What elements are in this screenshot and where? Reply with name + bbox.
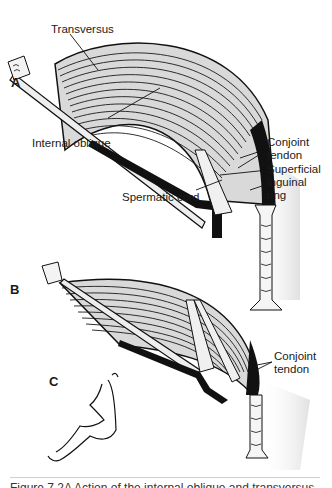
label-superficial-inguinal-ring: Superficial inguinal ring [267, 163, 321, 202]
panel-a-label: A [11, 75, 20, 90]
label-conjoint-tendon-a: Conjoint tendon [267, 136, 309, 162]
anatomy-illustration [0, 0, 332, 488]
label-conjoint-b-line2: tendon [274, 363, 316, 376]
label-internal-oblique: Internal oblique [32, 137, 111, 150]
figure-caption: Figure 7.2A Action of the internal obliq… [10, 481, 330, 488]
label-conjoint-tendon-b: Conjoint tendon [274, 350, 316, 376]
inguinal-canal-figure: A B C Transversus Internal oblique Conjo… [0, 0, 332, 488]
label-conjoint-b-line1: Conjoint [274, 350, 316, 363]
label-ring-line3: ring [267, 189, 321, 202]
panel-c-figure [48, 373, 118, 460]
caption-divider [10, 477, 320, 478]
panel-c-label: C [49, 374, 58, 389]
label-ring-line1: Superficial [267, 163, 321, 176]
label-transversus: Transversus [51, 23, 114, 36]
label-conjoint-line1: Conjoint [267, 136, 309, 149]
panel-b-label: B [10, 282, 19, 297]
label-spermatic-cord: Spermatic cord [122, 191, 199, 204]
label-ring-line2: inguinal [267, 176, 321, 189]
label-conjoint-line2: tendon [267, 149, 309, 162]
